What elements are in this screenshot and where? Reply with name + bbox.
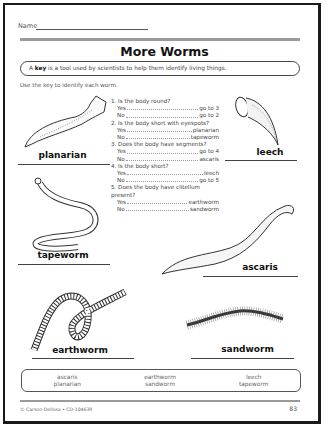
answer-line[interactable]	[203, 276, 298, 277]
page-number: 83	[289, 405, 297, 412]
leech-illustration	[232, 95, 282, 150]
answer-line[interactable]	[18, 164, 110, 165]
top-divider	[20, 38, 300, 41]
page-title: More Worms	[0, 44, 329, 59]
planarian-label: planarian	[20, 150, 105, 160]
answer-line[interactable]	[32, 358, 134, 359]
word-bank-column: ascaris planarian	[54, 374, 81, 388]
leech-label: leech	[240, 147, 300, 157]
key-definition-box: A key is a tool used by scientists to he…	[20, 61, 300, 76]
key-step: 4. Is the body short? Yesleech Nogo to 5	[111, 163, 219, 185]
key-step: 2. Is the body short with eyespots? Yesp…	[111, 120, 219, 142]
bottom-divider	[20, 400, 300, 402]
ascaris-label: ascaris	[225, 262, 295, 272]
instructions: Use the key to identify each worm.	[20, 82, 118, 88]
planarian-illustration	[20, 92, 110, 152]
dichotomous-key: 1. Is the body round? Yesgo to 3 Nogo to…	[111, 98, 219, 213]
copyright-footer: © Carson-Dellosa • CD-104639	[20, 407, 92, 412]
name-field[interactable]	[36, 29, 148, 30]
tapeworm-label: tapeworm	[18, 250, 108, 260]
name-label: Name	[18, 22, 37, 30]
answer-line[interactable]	[225, 160, 297, 161]
word-bank: ascaris planarian earthworm sandworm lee…	[21, 369, 301, 392]
key-term: key	[35, 65, 46, 71]
key-step: 1. Is the body round? Yesgo to 3 Nogo to…	[111, 98, 219, 120]
answer-line[interactable]	[18, 264, 110, 265]
answer-line[interactable]	[191, 358, 294, 359]
word-bank-column: earthworm sandworm	[144, 374, 176, 388]
key-step: 3. Does the body have segments? Yesgo to…	[111, 141, 219, 163]
earthworm-label: earthworm	[30, 345, 130, 355]
sandworm-label: sandworm	[205, 344, 290, 354]
word-bank-column: leech tapeworm	[239, 374, 268, 388]
tapeworm-illustration	[18, 175, 108, 255]
sandworm-illustration	[185, 305, 285, 335]
